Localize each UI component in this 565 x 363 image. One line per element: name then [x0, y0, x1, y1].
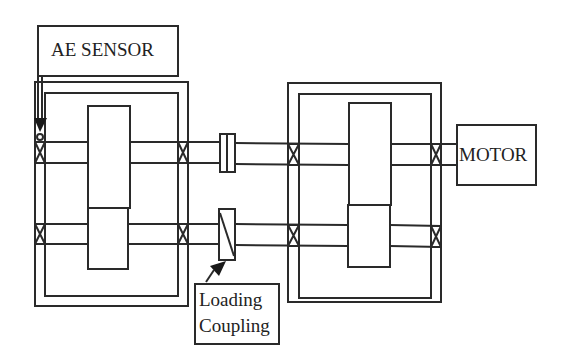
right-upper-gear — [349, 103, 391, 205]
loading-coupling-box: Loading Coupling — [194, 283, 280, 345]
shaft-coupling-icon — [220, 134, 235, 172]
motor-box: MOTOR — [456, 124, 537, 186]
left-upper-gear — [88, 106, 130, 208]
right-lower-gear — [348, 205, 390, 267]
loading-coupling-arrow-icon — [206, 261, 226, 282]
loading-coupling-icon — [219, 209, 235, 260]
left-lower-gear — [88, 208, 128, 269]
ae-sensor-box: AE SENSOR — [37, 25, 179, 77]
loading-coupling-label-line1: Loading — [199, 289, 262, 311]
ae-sensor-label: AE SENSOR — [51, 39, 154, 61]
motor-label: MOTOR — [459, 144, 527, 166]
loading-coupling-label-line2: Coupling — [199, 315, 270, 337]
